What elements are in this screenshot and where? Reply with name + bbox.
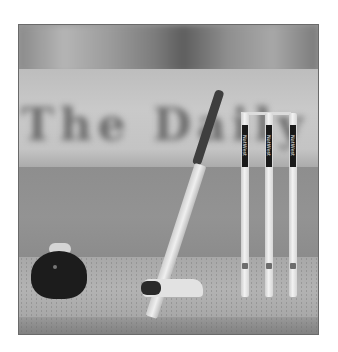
helmet-logo <box>53 265 57 269</box>
stump-mark <box>266 263 272 269</box>
stump-mark <box>242 263 248 269</box>
sponsor-logo: NatWest <box>290 125 296 167</box>
stump-middle: NatWest <box>265 113 273 297</box>
foreground-shadow <box>19 317 318 335</box>
stump-mark <box>290 263 296 269</box>
batting-glove-dark <box>141 281 161 295</box>
helmet <box>31 251 87 299</box>
stadium-banner: The Daily <box>19 69 318 169</box>
stump-left: NatWest <box>241 113 249 297</box>
blurred-crowd <box>19 25 318 73</box>
sponsor-logo: NatWest <box>266 125 272 167</box>
sponsor-logo: NatWest <box>242 125 248 167</box>
cricket-photo: The Daily NatWest NatWest NatWest <box>18 24 319 335</box>
stump-right: NatWest <box>289 113 297 297</box>
